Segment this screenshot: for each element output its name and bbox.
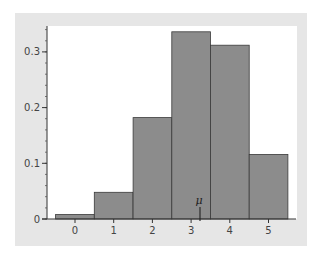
y-tick-label: 0	[34, 214, 40, 225]
y-tick-label: 0.2	[24, 102, 40, 113]
mean-marker-label: μ	[195, 194, 202, 207]
histogram-chart: 00.10.20.3012345μ	[0, 0, 320, 258]
y-tick-label: 0.3	[24, 46, 40, 57]
x-tick-label: 3	[188, 225, 194, 236]
x-tick-label: 4	[227, 225, 233, 236]
bar-0	[56, 215, 95, 220]
x-tick-label: 1	[111, 225, 117, 236]
bar-4	[211, 45, 250, 219]
bar-5	[249, 154, 288, 219]
x-tick-label: 0	[72, 225, 78, 236]
y-tick-label: 0.1	[24, 158, 40, 169]
bar-2	[133, 118, 172, 219]
bar-1	[94, 192, 133, 219]
x-tick-label: 5	[265, 225, 271, 236]
bar-3	[172, 32, 211, 219]
x-tick-label: 2	[149, 225, 155, 236]
